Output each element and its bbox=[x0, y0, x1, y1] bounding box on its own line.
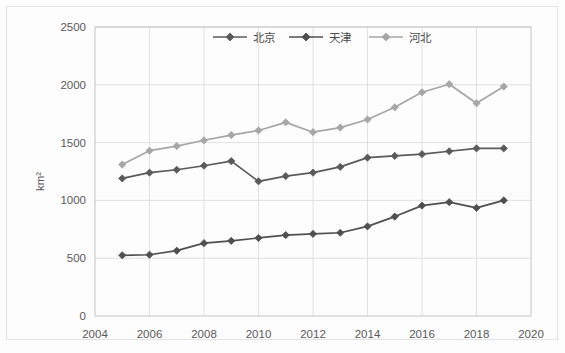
data-point-天津-2019 bbox=[500, 197, 507, 204]
data-point-天津-2013 bbox=[337, 229, 344, 236]
chart-plot-area: 0500100015002000250020042006200820102012… bbox=[0, 0, 565, 353]
data-point-天津-2006 bbox=[146, 251, 153, 258]
x-tick-label-2006: 2006 bbox=[137, 328, 163, 340]
legend-marker-北京 bbox=[226, 33, 234, 41]
data-point-河北-2010 bbox=[255, 127, 262, 134]
x-tick-label-2012: 2012 bbox=[300, 328, 326, 340]
x-tick-label-2004: 2004 bbox=[82, 328, 108, 340]
data-point-天津-2012 bbox=[309, 230, 316, 237]
data-point-北京-2017 bbox=[446, 148, 453, 155]
data-point-北京-2014 bbox=[364, 154, 371, 161]
data-point-河北-2015 bbox=[391, 104, 398, 111]
data-point-北京-2019 bbox=[500, 145, 507, 152]
data-point-天津-2017 bbox=[446, 199, 453, 206]
data-point-天津-2015 bbox=[391, 213, 398, 220]
y-tick-label-2500: 2500 bbox=[60, 21, 86, 33]
x-tick-label-2008: 2008 bbox=[191, 328, 217, 340]
data-point-天津-2008 bbox=[200, 240, 207, 247]
y-axis-title: km² bbox=[34, 172, 46, 191]
line-chart-figure: 0500100015002000250020042006200820102012… bbox=[0, 0, 565, 353]
data-point-北京-2015 bbox=[391, 152, 398, 159]
data-point-北京-2011 bbox=[282, 173, 289, 180]
data-point-河北-2011 bbox=[282, 119, 289, 126]
data-point-天津-2011 bbox=[282, 231, 289, 238]
legend-label-河北: 河北 bbox=[409, 31, 432, 45]
data-point-北京-2013 bbox=[337, 163, 344, 170]
data-point-河北-2007 bbox=[173, 142, 180, 149]
x-tick-label-2018: 2018 bbox=[464, 328, 490, 340]
y-tick-label-0: 0 bbox=[80, 310, 86, 322]
x-tick-label-2014: 2014 bbox=[355, 328, 381, 340]
y-tick-label-2000: 2000 bbox=[60, 79, 86, 91]
data-point-北京-2006 bbox=[146, 169, 153, 176]
legend-item-河北[interactable]: 河北 bbox=[369, 31, 432, 45]
data-point-北京-2016 bbox=[418, 151, 425, 158]
data-point-河北-2013 bbox=[337, 124, 344, 131]
data-point-天津-2016 bbox=[418, 202, 425, 209]
y-tick-label-500: 500 bbox=[67, 252, 86, 264]
y-tick-label-1500: 1500 bbox=[60, 137, 86, 149]
data-point-天津-2014 bbox=[364, 223, 371, 230]
data-point-河北-2005 bbox=[119, 161, 126, 168]
legend-item-北京[interactable]: 北京 bbox=[213, 31, 275, 45]
data-point-天津-2007 bbox=[173, 247, 180, 254]
legend-marker-河北 bbox=[382, 33, 390, 41]
data-point-天津-2010 bbox=[255, 234, 262, 241]
data-point-天津-2018 bbox=[473, 204, 480, 211]
x-tick-label-2010: 2010 bbox=[246, 328, 272, 340]
x-tick-label-2020: 2020 bbox=[518, 328, 544, 340]
data-point-天津-2009 bbox=[228, 237, 235, 244]
data-point-北京-2012 bbox=[309, 169, 316, 176]
legend-item-天津[interactable]: 天津 bbox=[289, 31, 351, 45]
data-point-北京-2007 bbox=[173, 166, 180, 173]
y-tick-label-1000: 1000 bbox=[60, 194, 86, 206]
legend-label-天津: 天津 bbox=[329, 31, 351, 45]
data-point-河北-2016 bbox=[418, 89, 425, 96]
data-point-北京-2018 bbox=[473, 145, 480, 152]
legend-marker-天津 bbox=[302, 33, 310, 41]
data-point-北京-2008 bbox=[200, 162, 207, 169]
data-point-河北-2006 bbox=[146, 147, 153, 154]
data-point-河北-2009 bbox=[228, 131, 235, 138]
data-point-北京-2005 bbox=[119, 175, 126, 182]
data-point-河北-2014 bbox=[364, 116, 371, 123]
legend-label-北京: 北京 bbox=[253, 31, 275, 45]
x-tick-label-2016: 2016 bbox=[409, 328, 435, 340]
data-point-河北-2012 bbox=[309, 129, 316, 136]
